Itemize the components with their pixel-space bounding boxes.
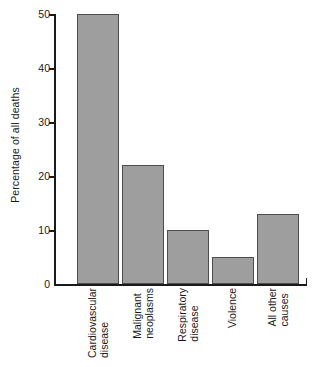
bar xyxy=(257,214,299,284)
category-label: All othercauses xyxy=(257,288,299,367)
category-label-line: disease xyxy=(98,288,110,358)
category-label: Malignantneoplasms xyxy=(122,288,164,367)
category-label: Cardiovasculardisease xyxy=(77,288,119,367)
y-tick-label: 10 xyxy=(38,224,50,236)
bar xyxy=(212,257,254,284)
x-axis-category-labels: CardiovasculardiseaseMalignantneoplasmsR… xyxy=(54,288,307,367)
y-axis-title: Percentage of all deaths xyxy=(4,0,26,290)
y-tick-label: 30 xyxy=(38,116,50,128)
bar xyxy=(77,14,119,284)
y-axis-title-text: Percentage of all deaths xyxy=(9,87,21,203)
x-axis-line xyxy=(54,284,307,286)
category-label-line: Malignant xyxy=(131,288,143,339)
category-label-line: Cardiovascular xyxy=(86,288,98,358)
bar xyxy=(122,165,164,284)
y-axis-line xyxy=(54,14,56,284)
category-label-line: Violence xyxy=(227,288,239,328)
bar xyxy=(167,230,209,284)
category-label: Violence xyxy=(212,288,254,367)
y-tick-label: 20 xyxy=(38,170,50,182)
bar-chart-figure: Percentage of all deaths 01020304050 Car… xyxy=(0,0,321,367)
category-label-line: causes xyxy=(278,288,290,327)
x-axis-end-tick xyxy=(306,278,308,285)
y-tick-label: 40 xyxy=(38,62,50,74)
category-label-line: neoplasms xyxy=(143,288,155,339)
category-label: Respiratorydisease xyxy=(167,288,209,367)
y-tick-label: 50 xyxy=(38,8,50,20)
plot-area: 01020304050 xyxy=(54,14,307,284)
category-label-line: Respiratory xyxy=(176,288,188,342)
category-label-line: All other xyxy=(266,288,278,327)
y-tick-label: 0 xyxy=(44,278,50,290)
category-label-line: disease xyxy=(188,288,200,342)
